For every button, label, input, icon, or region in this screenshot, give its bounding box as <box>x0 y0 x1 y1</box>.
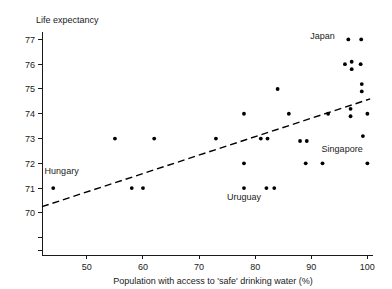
data-point <box>346 38 350 42</box>
plot-canvas: Life expectancy 7776757473727170 5060708… <box>0 0 392 289</box>
y-tick-label-74: 74 <box>25 109 35 119</box>
data-point <box>343 62 347 66</box>
data-point <box>350 60 354 64</box>
data-point <box>349 114 353 118</box>
data-point <box>242 112 246 116</box>
data-point <box>130 186 134 190</box>
data-point <box>276 87 280 91</box>
data-point <box>350 67 354 71</box>
data-point <box>51 186 55 190</box>
y-tick-label-76: 76 <box>25 60 35 70</box>
data-point <box>360 82 364 86</box>
data-point <box>305 139 309 143</box>
x-tick-label-60: 60 <box>138 262 148 272</box>
data-point <box>214 137 218 141</box>
annotation-singapore: Singapore <box>322 144 363 154</box>
y-axis-title: Life expectancy <box>36 15 99 25</box>
y-tick-label-72: 72 <box>25 159 35 169</box>
data-point <box>360 90 364 94</box>
y-axis: 7776757473727170 <box>25 32 42 255</box>
data-point <box>304 161 308 165</box>
x-tick-label-90: 90 <box>306 262 316 272</box>
data-point <box>113 137 117 141</box>
annotation-japan: Japan <box>310 31 335 41</box>
data-point <box>259 137 263 141</box>
data-point <box>359 38 363 42</box>
y-tick-label-73: 73 <box>25 134 35 144</box>
x-tick-label-100: 100 <box>360 262 375 272</box>
data-point <box>298 139 302 143</box>
data-point <box>361 134 365 138</box>
x-tick-label-70: 70 <box>194 262 204 272</box>
data-point <box>326 112 330 116</box>
data-point <box>266 137 270 141</box>
annotation-uruguay: Uruguay <box>227 192 262 202</box>
data-point <box>287 112 291 116</box>
x-tick-label-50: 50 <box>82 262 92 272</box>
data-point <box>321 161 325 165</box>
x-tick-label-80: 80 <box>250 262 260 272</box>
x-axis-title: Population with access to 'safe' drinkin… <box>113 276 313 286</box>
annotation-hungary: Hungary <box>45 166 80 176</box>
data-point <box>359 62 363 66</box>
y-tick-label-77: 77 <box>25 35 35 45</box>
y-tick-label-71: 71 <box>25 184 35 194</box>
data-point <box>242 161 246 165</box>
x-axis: 5060708090100 <box>42 255 375 272</box>
data-point <box>152 137 156 141</box>
data-points <box>51 38 369 190</box>
data-point <box>365 161 369 165</box>
data-point <box>365 112 369 116</box>
y-tick-label-70: 70 <box>25 208 35 218</box>
scatter-plot-figure: Life expectancy 7776757473727170 5060708… <box>0 0 392 289</box>
data-point <box>265 186 269 190</box>
data-point <box>272 186 276 190</box>
data-point <box>141 186 145 190</box>
data-point <box>349 107 353 111</box>
data-point <box>242 186 246 190</box>
y-tick-label-75: 75 <box>25 84 35 94</box>
